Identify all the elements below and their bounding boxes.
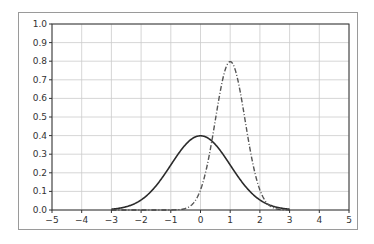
y-tick-label: 0.6: [33, 93, 48, 103]
y-tick-label: 0.4: [33, 131, 48, 141]
grid-lines: [52, 24, 349, 210]
y-tick-label: 0.3: [33, 149, 47, 159]
x-tick-label: 2: [257, 215, 263, 225]
y-tick-label: 0.9: [33, 38, 48, 48]
y-tick-label: 0.5: [33, 112, 47, 122]
x-tick-label: 3: [287, 215, 293, 225]
y-tick-label: 1.0: [33, 19, 48, 29]
x-tick-label: 0: [198, 215, 204, 225]
x-tick-label: −2: [134, 215, 147, 225]
y-tick-label: 0.1: [33, 186, 47, 196]
x-tick-label: −4: [75, 215, 89, 225]
y-tick-label: 0.2: [33, 168, 47, 178]
x-tick-label: 4: [316, 215, 322, 225]
x-tick-label: 5: [346, 215, 352, 225]
x-tick-label: −1: [164, 215, 177, 225]
y-tick-label: 0.0: [33, 205, 48, 215]
x-tick-label: −3: [105, 215, 118, 225]
y-tick-label: 0.8: [33, 56, 48, 66]
x-axis: −5−4−3−2−1012345: [45, 210, 352, 225]
x-tick-label: 1: [227, 215, 233, 225]
y-tick-label: 0.7: [33, 75, 47, 85]
y-axis: 0.00.10.20.30.40.50.60.70.80.91.0: [33, 19, 52, 215]
x-tick-label: −5: [45, 215, 58, 225]
line-chart: −5−4−3−2−1012345 0.00.10.20.30.40.50.60.…: [0, 0, 374, 244]
